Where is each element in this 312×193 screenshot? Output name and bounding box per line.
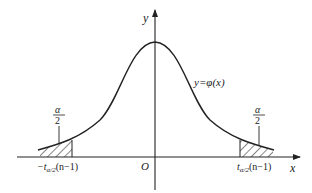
right-area-label: α 2 bbox=[253, 104, 265, 145]
left-area-numerator: α bbox=[55, 104, 61, 115]
curve-label: y=φ(x) bbox=[193, 76, 225, 89]
density-curve bbox=[38, 42, 274, 150]
right-tail-shading bbox=[240, 135, 273, 157]
left-area-label: α 2 bbox=[53, 104, 65, 143]
left-critical-value: −tα/2(n−1) bbox=[37, 161, 78, 174]
left-tail-shading bbox=[40, 135, 72, 157]
density-diagram: y x O y=φ(x) α 2 α 2 −tα/2(n−1) tα/2(n−1… bbox=[0, 0, 312, 193]
y-axis-label: y bbox=[142, 11, 149, 25]
x-axis-label: x bbox=[289, 161, 296, 175]
right-area-numerator: α bbox=[255, 104, 261, 115]
left-area-denominator: 2 bbox=[55, 115, 60, 126]
origin-label: O bbox=[141, 160, 149, 172]
right-area-denominator: 2 bbox=[255, 115, 260, 126]
right-critical-value: tα/2(n−1) bbox=[237, 161, 271, 174]
